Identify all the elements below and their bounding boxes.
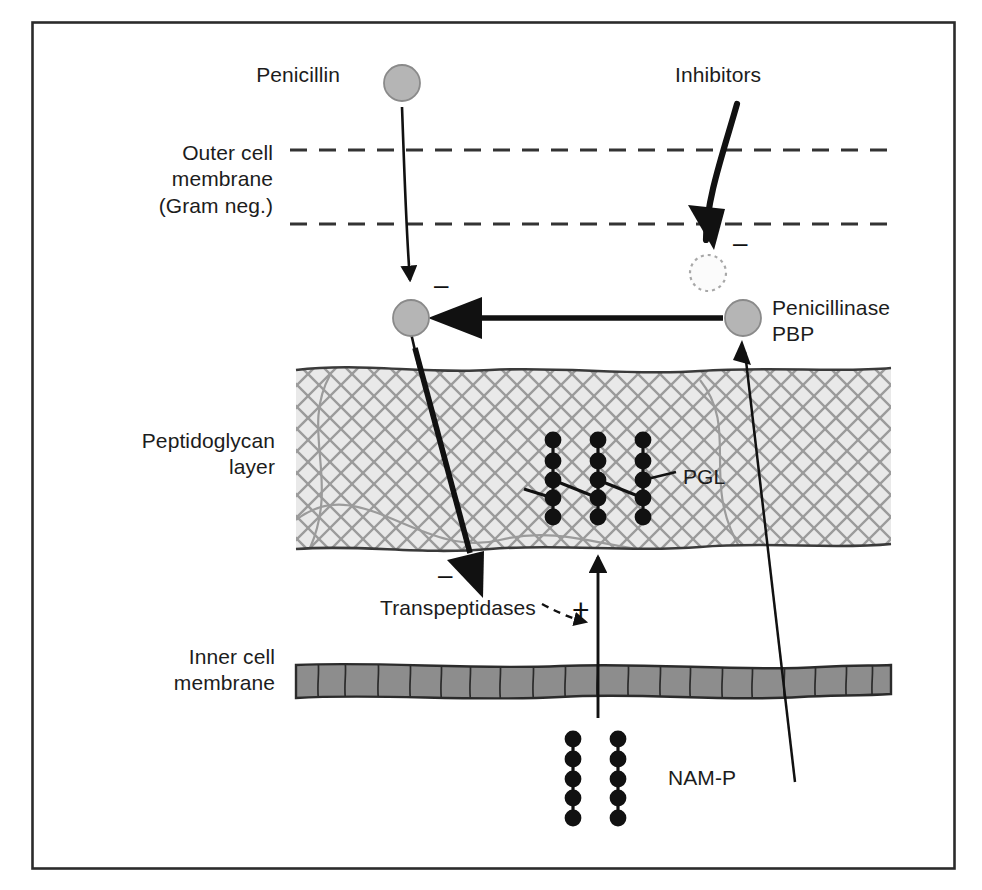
nam-p-structure (565, 731, 627, 827)
nam-p-dots (565, 731, 627, 827)
penicillin-entry-arrow (402, 107, 410, 280)
inhibited-enzyme-dotted-icon (690, 255, 726, 291)
peptidoglycan-layer-label: Peptidoglycan layer (60, 428, 275, 481)
penicillinase-pbp-label: Penicillinase PBP (772, 295, 982, 348)
inhibitors-label: Inhibitors (675, 62, 895, 88)
inhibitors-arrowhead (688, 205, 725, 250)
penicillin-inhibition-sign: – (434, 272, 448, 298)
transpeptidase-inhibition-sign: – (438, 562, 452, 588)
outer-cell-membrane-label: Outer cell membrane (Gram neg.) (68, 140, 273, 219)
inner-cell-membrane-label: Inner cell membrane (68, 644, 275, 697)
nam-p-stimulation-sign: + (572, 595, 590, 625)
pgl-label: PGL (683, 464, 773, 490)
pbp-target-icon (393, 300, 429, 336)
transpeptidases-label: Transpeptidases (380, 595, 600, 621)
penicillinase-enzyme-icon (725, 300, 761, 336)
inner-membrane-band (296, 664, 891, 699)
transpeptidase-inhibition-arrowhead (447, 551, 484, 598)
nam-p-label: NAM-P (668, 765, 828, 791)
outer-cell-membrane (290, 150, 893, 224)
inhibitor-inhibition-sign: – (733, 230, 747, 256)
inner-cell-membrane (296, 660, 891, 704)
penicillin-label: Penicillin (140, 62, 340, 88)
penicillin-molecule-icon (384, 65, 420, 101)
penicillinase-to-pbp-arrowhead (428, 297, 482, 339)
penicillinase-tether-arrow (733, 340, 751, 365)
figure-root: Penicillin Inhibitors Outer cell membran… (0, 0, 982, 890)
